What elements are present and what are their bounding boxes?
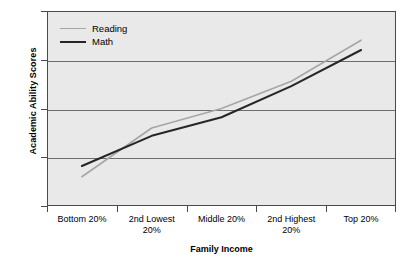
x-tick-mark-4 [326, 206, 327, 212]
x-category-line-1: 2nd Lowest [112, 214, 192, 225]
legend-line-icon-reading [60, 28, 86, 29]
x-category-label-middle-20: Middle 20% [182, 214, 262, 225]
x-category-line-1: Bottom 20% [42, 214, 122, 225]
gridline-55 [48, 61, 395, 62]
x-category-line-1: Top 20% [321, 214, 401, 225]
legend-line-icon-math [60, 41, 86, 43]
x-category-label-2nd-highest-20: 2nd Highest 20% [251, 214, 331, 236]
x-tick-mark-1 [117, 206, 118, 212]
x-category-line-2: 20% [112, 225, 192, 236]
x-category-line-2: 20% [251, 225, 331, 236]
x-tick-mark-0 [47, 206, 48, 212]
x-tick-mark-3 [256, 206, 257, 212]
gridline-50 [48, 110, 395, 111]
x-category-line-1: 2nd Highest [251, 214, 331, 225]
x-axis-title: Family Income [47, 244, 396, 254]
legend-label-reading: Reading [92, 23, 127, 34]
legend-label-math: Math [92, 36, 113, 47]
chart-legend: Reading Math [60, 22, 127, 48]
legend-entry-reading: Reading [60, 22, 127, 35]
x-category-label-bottom-20: Bottom 20% [42, 214, 122, 225]
gridline-45 [48, 158, 395, 159]
x-tick-mark-5 [395, 206, 396, 212]
line-chart: Academic Ability Scores 60 55 50 45 40 B… [0, 0, 405, 260]
legend-entry-math: Math [60, 35, 127, 48]
x-tick-mark-2 [187, 206, 188, 212]
x-category-line-1: Middle 20% [182, 214, 262, 225]
x-category-label-top-20: Top 20% [321, 214, 401, 225]
y-axis-title: Academic Ability Scores [28, 6, 38, 196]
x-category-label-2nd-lowest-20: 2nd Lowest 20% [112, 214, 192, 236]
